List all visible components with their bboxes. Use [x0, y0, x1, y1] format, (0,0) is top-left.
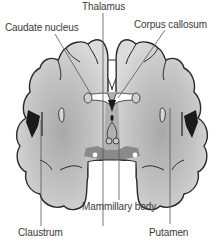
- putamen-label: Putamen: [149, 227, 188, 238]
- caudate-nucleus-label: Caudate nucleus: [5, 22, 79, 33]
- left-base-hole: [93, 153, 98, 158]
- claustrum-label: Claustrum: [18, 227, 63, 238]
- right-caudate-shape: [132, 93, 140, 103]
- right-base-hole: [133, 153, 138, 158]
- corpus-callosum-label: Corpus callosum: [134, 19, 207, 30]
- third-ventricle-lower: [111, 115, 114, 121]
- left-mammillary-body: [106, 138, 112, 144]
- ventral-gap: [88, 160, 136, 176]
- thalamus-label: Thalamus: [82, 1, 125, 12]
- right-mammillary-body: [113, 138, 119, 144]
- interhemispheric-fissure: [108, 60, 116, 90]
- mammillary-body-label: Mammillary body: [82, 201, 156, 212]
